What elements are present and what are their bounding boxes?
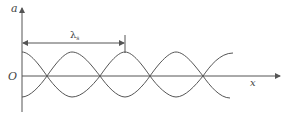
wavelength-label: λs: [70, 30, 79, 41]
standing-wave-diagram: a O x λs: [0, 0, 284, 117]
x-axis-label: x: [250, 78, 256, 88]
origin-label: O: [8, 71, 17, 82]
lower-wave-curve: [22, 52, 230, 98]
y-axis-label: a: [11, 3, 18, 14]
diagram-graphics: [0, 0, 284, 117]
wavelength-subscript: s: [76, 34, 79, 41]
